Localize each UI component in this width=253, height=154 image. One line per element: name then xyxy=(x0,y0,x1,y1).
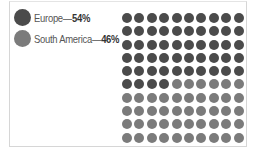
waffle-dot-europe xyxy=(221,13,231,23)
waffle-dot-south-america xyxy=(147,93,157,103)
waffle-dot-south-america xyxy=(172,119,182,129)
waffle-dot-europe xyxy=(147,79,157,89)
waffle-dot-europe xyxy=(122,26,132,36)
waffle-dot-south-america xyxy=(122,106,132,116)
waffle-dot-south-america xyxy=(209,106,219,116)
waffle-dot-south-america xyxy=(184,133,194,143)
waffle-dot-south-america xyxy=(122,119,132,129)
legend: Europe—54% South America—46% xyxy=(14,7,129,49)
waffle-dot-south-america xyxy=(172,79,182,89)
legend-swatch-europe-icon xyxy=(14,9,31,26)
waffle-dot-europe xyxy=(122,13,132,23)
waffle-dot-south-america xyxy=(147,106,157,116)
waffle-dot-south-america xyxy=(209,133,219,143)
waffle-dot-south-america xyxy=(221,93,231,103)
waffle-dot-south-america xyxy=(172,106,182,116)
waffle-dot-europe xyxy=(234,53,244,63)
waffle-dot-south-america xyxy=(172,133,182,143)
waffle-dot-south-america xyxy=(184,106,194,116)
waffle-dot-europe xyxy=(234,66,244,76)
waffle-dot-europe xyxy=(147,40,157,50)
waffle-dot-europe xyxy=(172,13,182,23)
legend-item-europe: Europe—54% xyxy=(14,7,129,28)
waffle-dot-south-america xyxy=(209,119,219,129)
waffle-dot-europe xyxy=(209,40,219,50)
waffle-dot-europe xyxy=(172,26,182,36)
waffle-dot-europe xyxy=(159,26,169,36)
waffle-dot-south-america xyxy=(234,133,244,143)
legend-swatch-south-america-icon xyxy=(14,30,31,47)
waffle-dot-south-america xyxy=(134,119,144,129)
waffle-dot-europe xyxy=(234,40,244,50)
waffle-dot-europe xyxy=(196,66,206,76)
waffle-dot-europe xyxy=(147,53,157,63)
waffle-dot-europe xyxy=(147,13,157,23)
waffle-dot-europe xyxy=(147,66,157,76)
waffle-dot-south-america xyxy=(196,93,206,103)
waffle-dot-europe xyxy=(134,66,144,76)
legend-item-south-america: South America—46% xyxy=(14,28,129,49)
waffle-dot-europe xyxy=(172,66,182,76)
waffle-dot-europe xyxy=(134,40,144,50)
waffle-dot-europe xyxy=(172,53,182,63)
waffle-dot-europe xyxy=(134,26,144,36)
waffle-dot-south-america xyxy=(172,93,182,103)
waffle-dot-europe xyxy=(221,26,231,36)
waffle-dot-south-america xyxy=(184,119,194,129)
waffle-dot-south-america xyxy=(234,79,244,89)
waffle-dot-europe xyxy=(221,53,231,63)
waffle-dot-south-america xyxy=(234,106,244,116)
waffle-dot-europe xyxy=(122,40,132,50)
waffle-dot-south-america xyxy=(122,133,132,143)
waffle-dot-south-america xyxy=(159,93,169,103)
waffle-dot-south-america xyxy=(147,119,157,129)
waffle-dot-south-america xyxy=(209,93,219,103)
waffle-dot-south-america xyxy=(196,119,206,129)
legend-label-europe: Europe—54% xyxy=(34,12,90,24)
waffle-dot-europe xyxy=(221,66,231,76)
waffle-dot-south-america xyxy=(134,93,144,103)
waffle-dot-europe xyxy=(196,40,206,50)
waffle-dot-europe xyxy=(209,26,219,36)
waffle-dot-europe xyxy=(234,13,244,23)
waffle-dot-south-america xyxy=(159,106,169,116)
waffle-dot-europe xyxy=(134,53,144,63)
waffle-dot-europe xyxy=(209,53,219,63)
waffle-dot-europe xyxy=(159,40,169,50)
waffle-dot-south-america xyxy=(221,79,231,89)
waffle-dot-south-america xyxy=(159,133,169,143)
waffle-dot-europe xyxy=(134,79,144,89)
waffle-dot-south-america xyxy=(134,133,144,143)
waffle-dot-south-america xyxy=(221,133,231,143)
waffle-dot-south-america xyxy=(196,106,206,116)
waffle-dot-europe xyxy=(172,40,182,50)
waffle-dot-europe xyxy=(196,53,206,63)
waffle-dot-europe xyxy=(184,40,194,50)
waffle-dot-europe xyxy=(122,66,132,76)
waffle-dot-europe xyxy=(184,53,194,63)
waffle-dot-europe xyxy=(159,53,169,63)
waffle-dot-europe xyxy=(184,13,194,23)
waffle-dot-europe xyxy=(134,13,144,23)
waffle-dot-south-america xyxy=(234,93,244,103)
waffle-dot-europe xyxy=(122,79,132,89)
waffle-dot-europe xyxy=(234,26,244,36)
waffle-dot-europe xyxy=(147,26,157,36)
waffle-dot-south-america xyxy=(221,106,231,116)
waffle-dot-south-america xyxy=(221,119,231,129)
waffle-dot-europe xyxy=(159,13,169,23)
waffle-dot-europe xyxy=(184,66,194,76)
waffle-dot-south-america xyxy=(147,133,157,143)
waffle-dot-europe xyxy=(196,26,206,36)
legend-label-south-america: South America—46% xyxy=(34,33,119,45)
waffle-dot-south-america xyxy=(196,79,206,89)
waffle-dot-south-america xyxy=(122,93,132,103)
waffle-dot-europe xyxy=(184,26,194,36)
waffle-dot-south-america xyxy=(159,119,169,129)
waffle-dot-europe xyxy=(159,66,169,76)
waffle-dot-south-america xyxy=(184,93,194,103)
waffle-dot-south-america xyxy=(184,79,194,89)
waffle-dot-europe xyxy=(221,40,231,50)
waffle-dot-europe xyxy=(196,13,206,23)
waffle-dot-south-america xyxy=(134,106,144,116)
